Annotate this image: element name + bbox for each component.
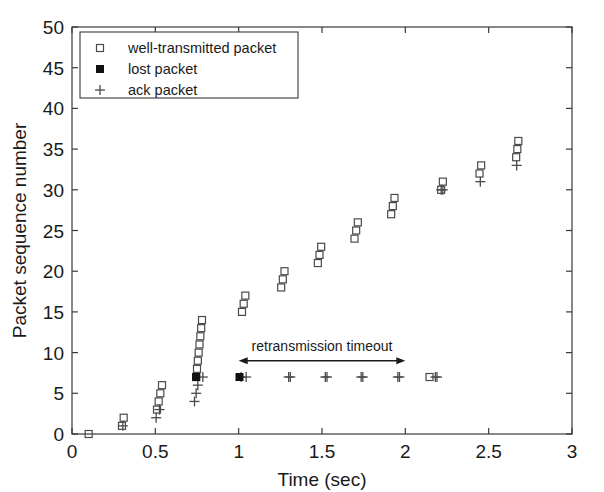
y-tick-label: 15 [43, 302, 64, 323]
y-tick-label: 35 [43, 139, 64, 160]
y-tick-label: 40 [43, 98, 64, 119]
data-point-filled-square [193, 374, 200, 381]
x-tick-label: 0.5 [142, 441, 168, 462]
y-tick-label: 20 [43, 261, 64, 282]
chart-figure: 00.511.522.53 05101520253035404550 Time … [0, 0, 604, 492]
y-axis-title: Packet sequence number [9, 122, 30, 338]
x-tick-label: 2 [400, 441, 411, 462]
y-tick-label: 45 [43, 58, 64, 79]
annotation-layer: retransmission timeout [239, 338, 406, 364]
legend-label: lost packet [128, 61, 197, 77]
x-axis-title: Time (sec) [277, 469, 366, 490]
x-tick-label: 1.5 [309, 441, 335, 462]
chart-legend: well-transmitted packetlost packetack pa… [80, 32, 298, 98]
x-tick-label: 0 [67, 441, 78, 462]
y-tick-label: 0 [53, 424, 64, 445]
legend-marker-filled-square [97, 66, 104, 73]
y-tick-label: 5 [53, 383, 64, 404]
y-tick-label: 30 [43, 180, 64, 201]
legend-label: well-transmitted packet [127, 40, 276, 56]
y-tick-label: 10 [43, 343, 64, 364]
y-tick-label: 25 [43, 221, 64, 242]
data-point-filled-square [236, 374, 243, 381]
retransmission-timeout-label: retransmission timeout [252, 338, 393, 354]
y-tick-label: 50 [43, 17, 64, 38]
legend-label: ack packet [128, 82, 197, 98]
scatter-plot: 00.511.522.53 05101520253035404550 Time … [0, 0, 604, 492]
x-tick-label: 3 [567, 441, 578, 462]
x-tick-label: 2.5 [475, 441, 501, 462]
x-tick-label: 1 [233, 441, 244, 462]
